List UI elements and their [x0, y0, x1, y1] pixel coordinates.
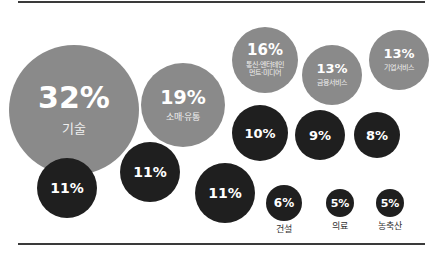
bubble-percent: 11% — [133, 165, 167, 179]
bubble-11pct-a: 11% — [120, 142, 180, 202]
bubble-9pct: 9% — [295, 110, 345, 160]
bubble-percent: 8% — [366, 129, 388, 142]
bubble-technology: 32% 기술 — [9, 45, 139, 175]
bubble-label-agriculture: 농축산 — [365, 219, 415, 232]
bubble-financial-services: 13% 금융서비스 — [302, 45, 362, 105]
bubble-label-line2: 먼트·미디어 — [249, 69, 281, 77]
bubble-label-construction: 건설 — [259, 222, 309, 235]
bubble-percent: 19% — [160, 88, 205, 107]
bubble-label: 금융서비스 — [317, 79, 347, 87]
bubble-percent: 13% — [316, 62, 347, 75]
bubble-medical: 5% — [326, 189, 354, 217]
bubble-agriculture: 5% — [376, 189, 404, 217]
bubble-label-medical: 의료 — [315, 219, 365, 232]
bubble-construction: 6% — [266, 185, 302, 221]
top-rule — [18, 1, 425, 3]
bubble-label: 기술 — [62, 121, 86, 137]
bubble-label: 소매·유통 — [166, 112, 201, 123]
bubble-percent: 6% — [274, 197, 294, 209]
bubble-10pct: 10% — [232, 105, 288, 161]
bubble-percent: 5% — [381, 198, 400, 209]
bubble-11pct-b: 11% — [37, 158, 97, 218]
bubble-percent: 32% — [38, 83, 110, 113]
bubble-percent: 13% — [383, 47, 414, 60]
bubble-business-services: 13% 기업서비스 — [369, 30, 429, 90]
bubble-percent: 9% — [309, 129, 331, 142]
bubble-percent: 11% — [208, 186, 242, 200]
bubble-8pct: 8% — [354, 112, 400, 158]
bubble-11pct-c: 11% — [195, 163, 255, 223]
bubble-percent: 10% — [244, 127, 275, 140]
bubble-percent: 11% — [50, 181, 84, 195]
bubble-retail: 19% 소매·유통 — [141, 63, 225, 147]
bubble-percent: 16% — [247, 43, 283, 58]
bubble-percent: 5% — [331, 198, 350, 209]
bubble-telecom-media: 16% 통신·엔터테인 먼트·미디어 — [232, 27, 298, 93]
bubble-label-line1: 통신·엔터테인 — [246, 61, 284, 69]
bottom-rule — [18, 243, 425, 245]
bubble-label: 기업서비스 — [384, 64, 414, 72]
